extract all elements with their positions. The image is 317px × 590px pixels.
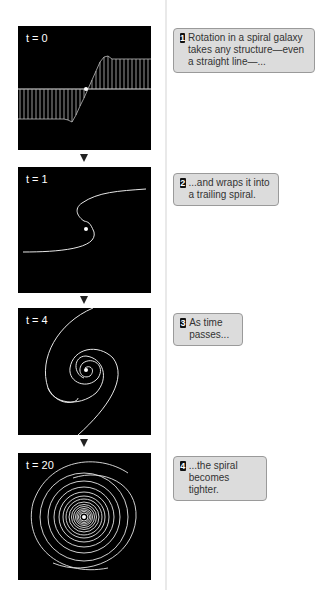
panel-t20: t = 20 xyxy=(18,453,151,580)
time-label: t = 20 xyxy=(26,459,54,471)
time-label: t = 4 xyxy=(26,314,48,326)
trailing-spiral-diagram xyxy=(18,167,151,293)
callout-3: 3 As time passes... xyxy=(173,313,243,346)
down-arrow-icon xyxy=(80,296,88,304)
callout-2: 2 ...and wraps it into a trailing spiral… xyxy=(173,173,279,206)
callout-text: Rotation in a spiral galaxy takes any st… xyxy=(188,32,308,68)
time-label: t = 1 xyxy=(26,173,48,185)
down-arrow-icon xyxy=(80,154,88,162)
callout-text: ...and wraps it into a trailing spiral. xyxy=(189,177,272,201)
step-number-badge: 2 xyxy=(180,178,186,188)
panel-t0: t = 0 xyxy=(18,26,151,150)
step-number-badge: 3 xyxy=(180,318,186,328)
step-number-badge: 4 xyxy=(180,461,186,471)
step-number-badge: 1 xyxy=(180,33,185,43)
time-label: t = 0 xyxy=(26,32,48,44)
callout-text: ...the spiral becomes tighter. xyxy=(189,460,260,496)
straight-line-velocity-diagram xyxy=(18,26,151,150)
callout-4: 4 ...the spiral becomes tighter. xyxy=(173,456,267,501)
callout-1: 1 Rotation in a spiral galaxy takes any … xyxy=(173,28,315,73)
panel-t4: t = 4 xyxy=(18,308,151,435)
callout-text: As time passes... xyxy=(189,317,236,341)
tight-spiral-diagram xyxy=(18,453,151,580)
down-arrow-icon xyxy=(80,439,88,447)
column-divider xyxy=(165,0,167,590)
wound-spiral-diagram xyxy=(18,308,151,435)
panel-t1: t = 1 xyxy=(18,167,151,293)
